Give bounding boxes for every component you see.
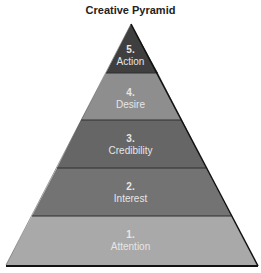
tier-name: Action xyxy=(0,56,261,68)
tier-label-action: 5. Action xyxy=(0,44,261,68)
tier-label-interest: 2. Interest xyxy=(0,181,261,205)
tier-label-credibility: 3. Credibility xyxy=(0,133,261,157)
tier-number: 1. xyxy=(0,229,261,241)
tier-number: 2. xyxy=(0,181,261,193)
tier-name: Desire xyxy=(0,99,261,111)
tier-name: Credibility xyxy=(0,145,261,157)
tier-label-desire: 4. Desire xyxy=(0,87,261,111)
tier-label-attention: 1. Attention xyxy=(0,229,261,253)
tier-name: Interest xyxy=(0,193,261,205)
tier-number: 3. xyxy=(0,133,261,145)
tier-number: 5. xyxy=(0,44,261,56)
tier-name: Attention xyxy=(0,241,261,253)
tier-number: 4. xyxy=(0,87,261,99)
